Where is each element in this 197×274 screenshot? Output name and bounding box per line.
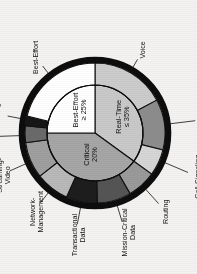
svg-text:Best-Effort: Best-Effort [32,41,40,74]
leader-line-call-signaling [164,163,187,173]
outer-label-voice: Voice [139,41,147,58]
leader-line-scavenger [8,116,21,119]
outer-label-streaming-video: Streaming-Video [0,157,12,192]
leader-line-streaming-video [10,164,26,171]
outer-label-call-signaling: Call-Signaling [194,155,197,199]
svg-text:Routing: Routing [162,199,170,224]
leader-line-voice [133,59,138,67]
svg-text:≥ 25%: ≥ 25% [79,99,88,120]
leader-line-best-effort-outer [43,66,49,73]
chart-canvas: Real-Time≤ 35%Critical20%Best-Effort≥ 25… [0,0,197,274]
svg-text:Video: Video [4,166,12,184]
outer-slice-bulk-data [25,126,47,143]
svg-text:Network-: Network- [29,197,37,226]
leader-line-routing [146,189,159,203]
svg-text:Voice: Voice [139,41,147,58]
svg-text:Mission-Critical: Mission-Critical [121,208,129,257]
svg-text:20%: 20% [90,147,99,162]
svg-text:Call-Signaling: Call-Signaling [194,155,197,199]
outer-label-routing: Routing [162,199,170,224]
leader-line-interactive-video [170,121,195,124]
outer-label-network-management: Network-Management [29,191,45,232]
leader-line-bulk-data [0,136,20,137]
svg-text:Data: Data [79,228,87,243]
outer-label-best-effort-outer: Best-Effort [32,41,40,74]
svg-text:Data: Data [129,225,137,240]
sunburst-chart: Real-Time≤ 35%Critical20%Best-Effort≥ 25… [0,0,197,274]
svg-text:≤ 35%: ≤ 35% [122,106,131,127]
outer-label-scavenger: Scavenger [0,96,1,131]
outer-label-mission-critical-data: Mission-CriticalData [121,208,137,257]
ring-segments [22,60,168,206]
outer-label-transactional-data: TransactionalData [71,214,87,257]
svg-text:Scavenger: Scavenger [0,96,1,131]
